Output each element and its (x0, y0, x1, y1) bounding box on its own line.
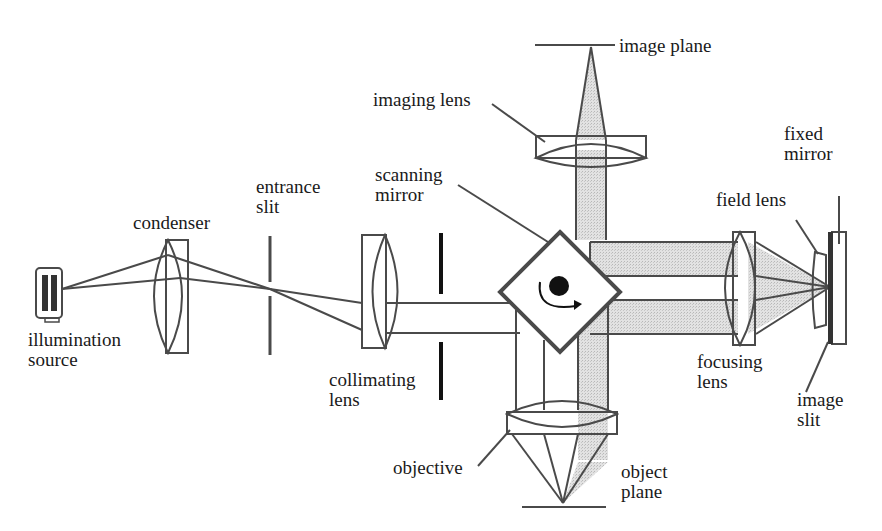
label-collimating-lens: collimating lens (329, 370, 416, 410)
label-focusing-lens: focusing lens (697, 352, 762, 392)
collimated-beam (386, 303, 520, 333)
label-illumination-source: illumination source (28, 330, 121, 370)
label-entrance-slit: entrance slit (256, 177, 320, 217)
label-condenser: condenser (133, 213, 210, 233)
label-fixed-mirror: fixed mirror (784, 124, 833, 164)
fixed-mirror (828, 232, 846, 344)
optical-diagram (0, 0, 882, 531)
label-imaging-lens: imaging lens (373, 90, 471, 110)
illumination-source (36, 268, 62, 322)
collimating-lens (362, 235, 398, 348)
label-field-lens: field lens (716, 190, 786, 210)
label-object-plane: object plane (621, 462, 667, 502)
illumination-rays (62, 255, 362, 330)
label-scanning-mirror: scanning mirror (375, 165, 443, 205)
label-image-plane: image plane (619, 36, 711, 56)
label-objective: objective (393, 458, 463, 478)
label-image-slit: image slit (797, 390, 843, 430)
